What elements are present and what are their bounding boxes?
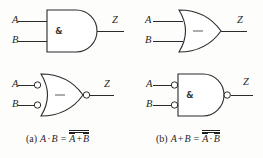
output-inversion-bubble-icon [83, 92, 89, 98]
caption-b-rhs-group: A·B [202, 132, 220, 145]
and-gate-body [178, 74, 224, 116]
caption-a-rhs-op: + [75, 133, 83, 144]
figure-root: A B Z & A B Z A B Z [0, 0, 263, 158]
input-label-b: B [146, 99, 152, 110]
input-label-b: B [145, 35, 151, 46]
input-inversion-bubble-a-icon [34, 82, 40, 88]
caption-b-rhs-var2: B [214, 133, 220, 145]
input-label-a: A [145, 15, 151, 26]
caption-b-equals: = [191, 133, 203, 144]
input-inversion-bubble-b-icon [171, 102, 177, 108]
caption-b-lhs-var1: A [168, 133, 177, 144]
caption-b-outer-bar: A·B [202, 130, 220, 145]
or-gate-svg [131, 2, 263, 64]
gate-diagram-and: A B Z & [0, 2, 131, 64]
output-label-z: Z [112, 15, 118, 26]
input-label-a: A [146, 79, 152, 90]
input-label-b: B [12, 99, 18, 110]
caption-a-rhs-group: A+B [69, 132, 89, 145]
caption-a-lhs-var2: B [52, 133, 58, 144]
or-inverted-gate-svg [0, 66, 131, 128]
caption-b: (b)A+B=A·B [156, 130, 220, 145]
gate-diagram-or: A B Z [131, 2, 263, 64]
caption-b-lhs-var2: B [184, 133, 190, 144]
input-label-a: A [12, 79, 18, 90]
input-inversion-bubble-a-icon [171, 82, 177, 88]
ampersand-and-symbol-icon: & [186, 91, 193, 100]
gate-diagram-and-inverted: A B Z & [131, 66, 263, 128]
caption-a-outer-bar: A+B [69, 130, 89, 145]
caption-a-equals: = [58, 133, 70, 144]
caption-b-tag: (b) [156, 133, 168, 144]
gate-diagram-or-inverted: A B Z [0, 66, 131, 128]
caption-a-rhs-var2: B [83, 133, 89, 145]
caption-a-lhs-var1: A [37, 133, 46, 144]
output-label-z: Z [237, 15, 243, 26]
input-inversion-bubble-b-icon [34, 102, 40, 108]
output-label-z: Z [243, 77, 249, 88]
caption-a: (a)A·B=A+B [26, 130, 89, 145]
ampersand-and-symbol-icon: & [55, 27, 62, 36]
and-gate-svg [0, 2, 131, 64]
input-label-a: A [12, 15, 18, 26]
caption-a-tag: (a) [26, 133, 37, 144]
output-label-z: Z [104, 79, 110, 90]
input-label-b: B [12, 35, 18, 46]
output-inversion-bubble-icon [224, 92, 230, 98]
